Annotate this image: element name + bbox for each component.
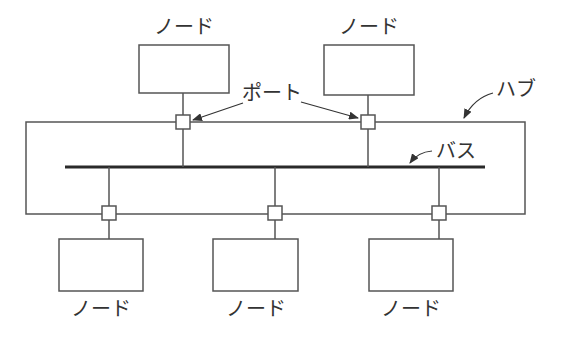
bottom-node-2-box bbox=[213, 239, 298, 291]
port-arrow-left bbox=[193, 103, 243, 120]
port-bottom-2 bbox=[268, 206, 282, 220]
port-bottom-3 bbox=[432, 206, 446, 220]
top-node-2-label: ノード bbox=[339, 15, 399, 39]
port-label: ポート bbox=[242, 81, 302, 105]
hub-arrow bbox=[464, 93, 493, 118]
bottom-node-3-label: ノード bbox=[381, 297, 441, 321]
bus-arrow bbox=[410, 151, 432, 163]
port-top-2 bbox=[361, 115, 375, 129]
top-node-1-label: ノード bbox=[154, 15, 214, 39]
bottom-node-3-box bbox=[369, 239, 453, 291]
bottom-node-1-label: ノード bbox=[71, 297, 131, 321]
bus-label: バス bbox=[436, 139, 476, 163]
hub-label: ハブ bbox=[496, 77, 536, 101]
port-bottom-1 bbox=[102, 206, 116, 220]
bottom-node-1-box bbox=[59, 239, 143, 291]
top-node-1-box bbox=[139, 45, 229, 93]
bottom-node-2-label: ノード bbox=[226, 297, 286, 321]
top-node-2-box bbox=[324, 45, 414, 95]
port-arrow-right bbox=[301, 102, 358, 118]
port-top-1 bbox=[176, 115, 190, 129]
hub-bus-diagram: ノード ノード ポート ハブ バス ノード ノード ノード bbox=[0, 0, 561, 340]
